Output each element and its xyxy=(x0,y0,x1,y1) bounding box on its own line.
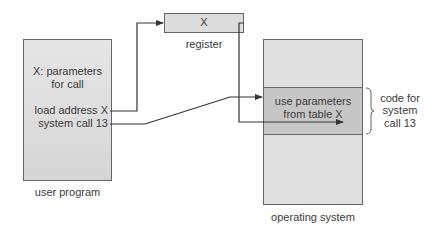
connector-lines xyxy=(0,0,432,234)
brace-icon xyxy=(366,88,374,134)
arrow-load-to-register xyxy=(110,23,163,111)
arrow-register-to-os xyxy=(239,23,343,122)
